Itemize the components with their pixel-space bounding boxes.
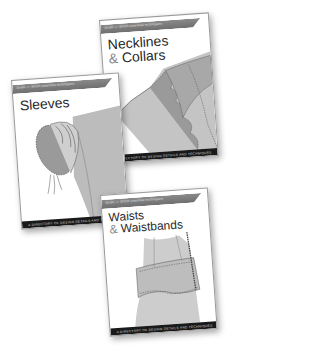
book-cover-waists-waistbands: Seam — Stitch essential techniques Waist…: [100, 187, 218, 336]
waistband-illustration: [101, 189, 217, 336]
